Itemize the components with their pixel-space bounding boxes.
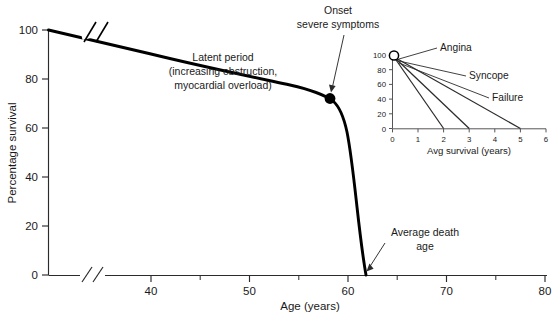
inset-x-tick-label-6: 6	[544, 135, 548, 144]
inset-x-tick-label-1: 1	[416, 135, 420, 144]
inset-y-tick-label-60: 60	[377, 80, 386, 89]
inset-x-tick-label-0: 0	[390, 135, 395, 144]
x-tick-label-60: 60	[342, 285, 355, 297]
curve-break-mark	[82, 22, 108, 42]
inset-series-label-angina: Angina	[440, 42, 472, 53]
x-axis-title: Age (years)	[280, 300, 340, 312]
latent-period-annotation: Latent period (increasing obstruction, m…	[169, 51, 278, 91]
inset-series-label-syncope: Syncope	[469, 70, 509, 81]
inset-y-tick-labels: 100 80 60 40 20 0	[373, 51, 387, 134]
average-death-age-annotation: Average death age	[367, 226, 460, 272]
inset-y-tick-label-20: 20	[377, 110, 386, 119]
latent-period-line-3: myocardial overload)	[174, 79, 271, 91]
latent-period-line-2: (increasing obstruction,	[169, 65, 278, 77]
inset-leader-syncope	[399, 61, 466, 76]
main-y-axis	[42, 30, 49, 275]
survival-curve-figure: 100 80 60 40 20 0 Percentage survival 40…	[0, 0, 557, 313]
death-line-1: Average death	[391, 226, 459, 238]
death-arrow-head	[367, 264, 374, 272]
main-x-tick-labels: 40 50 60 70 80	[145, 285, 552, 297]
inset-x-tick-label-2: 2	[441, 135, 445, 144]
onset-severe-symptoms-annotation: Onset severe symptoms	[297, 4, 379, 93]
y-tick-label-60: 60	[25, 122, 38, 134]
y-tick-label-20: 20	[25, 220, 38, 232]
x-tick-label-50: 50	[243, 285, 256, 297]
inset-x-axis-title: Avg survival (years)	[427, 145, 511, 156]
y-tick-label-40: 40	[25, 171, 38, 183]
onset-line-2: severe symptoms	[297, 18, 379, 30]
onset-leader-line	[332, 35, 344, 89]
inset-x-tick-label-4: 4	[493, 135, 498, 144]
inset-chart: 100 80 60 40 20 0 0 1 2 3	[373, 42, 548, 156]
inset-series-line-failure	[394, 57, 444, 129]
main-x-axis	[49, 276, 548, 283]
latent-period-line-1: Latent period	[192, 51, 253, 63]
chart-canvas: 100 80 60 40 20 0 Percentage survival 40…	[0, 0, 557, 313]
main-y-tick-labels: 100 80 60 40 20 0	[19, 24, 38, 281]
inset-y-tick-label-100: 100	[373, 51, 387, 60]
inset-x-tick-labels: 0 1 2 3 4 5 6	[390, 135, 548, 144]
inset-y-tick-label-0: 0	[382, 125, 387, 134]
x-tick-label-70: 70	[440, 285, 453, 297]
inset-y-tick-label-40: 40	[377, 95, 386, 104]
x-tick-label-80: 80	[539, 285, 552, 297]
inset-y-tick-label-80: 80	[377, 66, 386, 75]
death-line-2: age	[416, 240, 434, 252]
onset-arrow-head	[329, 84, 336, 92]
x-axis-break-mark	[80, 267, 105, 282]
death-leader-line	[369, 243, 385, 268]
y-tick-label-100: 100	[19, 24, 38, 36]
inset-leader-angina	[399, 48, 437, 59]
inset-x-tick-label-5: 5	[518, 135, 523, 144]
onset-line-1: Onset	[324, 4, 352, 16]
inset-x-axis	[393, 129, 547, 133]
onset-severe-symptoms-marker	[325, 93, 336, 104]
y-axis-title: Percentage survival	[6, 103, 18, 204]
inset-x-tick-label-3: 3	[467, 135, 471, 144]
inset-y-axis	[389, 55, 393, 129]
y-tick-label-0: 0	[32, 269, 38, 281]
inset-origin-open-circle	[389, 51, 398, 60]
inset-series-label-failure: Failure	[492, 92, 523, 103]
x-tick-label-40: 40	[145, 285, 158, 297]
y-tick-label-80: 80	[25, 73, 38, 85]
